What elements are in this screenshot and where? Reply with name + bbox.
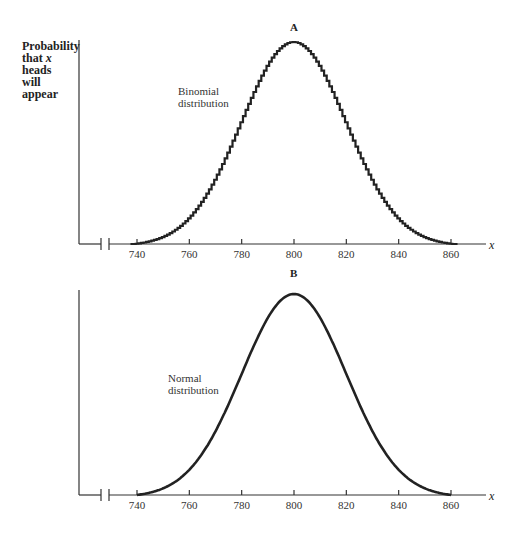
x-tick-label: 780 — [233, 499, 250, 511]
x-tick-label: 860 — [443, 499, 460, 511]
x-tick-label: 820 — [338, 499, 355, 511]
x-tick-label: 800 — [286, 499, 303, 511]
x-tick-label: 840 — [390, 499, 407, 511]
panel-a-x-variable: x — [489, 238, 494, 253]
x-tick-label: 820 — [338, 248, 355, 260]
panel-a-curve-label: Binomialdistribution — [178, 85, 229, 109]
x-tick-label: 740 — [129, 248, 146, 260]
x-tick-label: 780 — [233, 248, 250, 260]
x-tick-label: 860 — [443, 248, 460, 260]
x-tick-label: 840 — [390, 248, 407, 260]
panel-a-binomial-step-curve — [130, 42, 457, 244]
panel-b-curve-label: Normaldistribution — [168, 372, 219, 396]
panel-b-title: B — [290, 267, 297, 279]
panel-a-axes — [79, 40, 486, 250]
ylabel-line-5: appear — [22, 88, 80, 100]
panel-b-x-variable: x — [489, 489, 494, 504]
x-tick-label: 800 — [286, 248, 303, 260]
x-tick-label: 760 — [181, 248, 198, 260]
panel-a-title: A — [290, 21, 298, 33]
x-tick-label: 740 — [129, 499, 146, 511]
panel-b-axes — [79, 290, 486, 501]
y-axis-label: Probability that x heads will appear — [22, 40, 80, 100]
x-tick-label: 760 — [181, 499, 198, 511]
